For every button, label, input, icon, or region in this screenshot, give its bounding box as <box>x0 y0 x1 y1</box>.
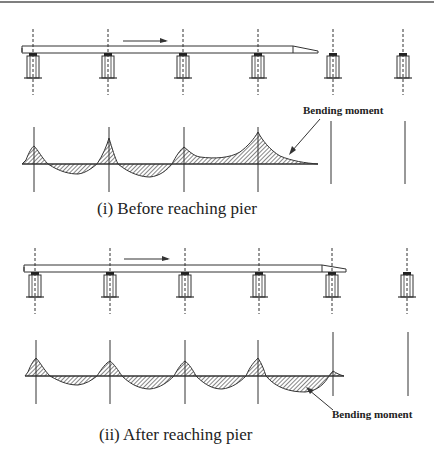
launch-direction-arrow-icon <box>124 256 170 261</box>
bending-moment-label-before: Bending moment <box>303 104 383 116</box>
panel-before-moment-diagram <box>22 119 405 192</box>
launch-direction-arrow-icon <box>123 38 168 43</box>
caption-after: (ii) After reaching pier <box>99 425 252 445</box>
panel-before-girder <box>22 29 412 95</box>
incremental-launching-diagram <box>0 0 434 463</box>
panel-after-girder <box>24 248 416 314</box>
caption-before: (i) Before reaching pier <box>97 199 257 219</box>
annotation-arrow-icon <box>289 119 320 155</box>
annotation-arrow-icon <box>306 387 333 410</box>
panel-after-moment-diagram <box>25 332 408 410</box>
bending-moment-label-after: Bending moment <box>332 408 412 420</box>
